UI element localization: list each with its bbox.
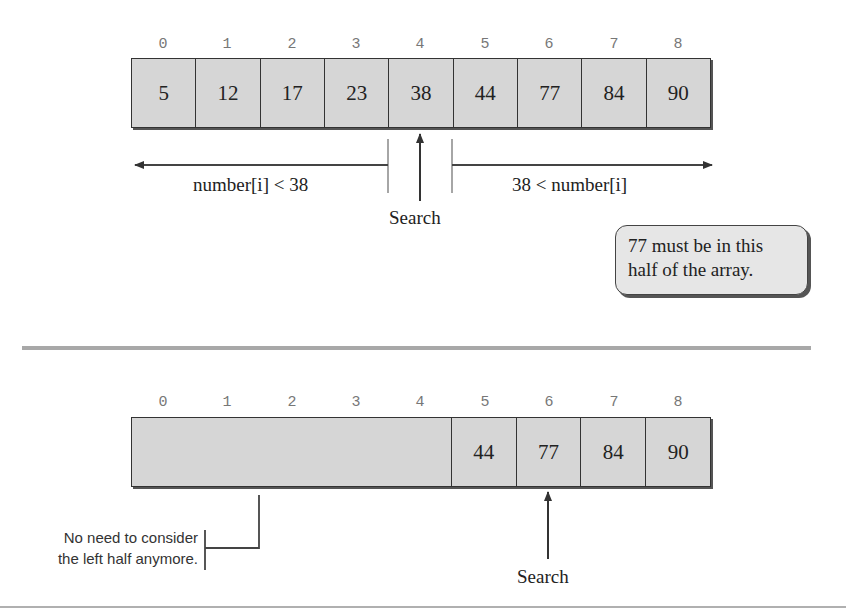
index-label: 7 [582,394,646,411]
index-label: 6 [517,394,581,411]
index-label: 0 [131,394,195,411]
search-label: Search [389,207,441,229]
array-cell: 90 [646,418,710,486]
callout-line: 77 must be in this [628,234,807,258]
bottom-rule [0,606,846,608]
right-range-label: 38 < number[i] [512,174,627,196]
array-cell-searched: 77 [517,418,582,486]
bracket-icon [205,495,259,548]
index-label: 5 [453,394,517,411]
note-line: the left half anymore. [20,548,198,569]
left-range-label: number[i] < 38 [193,174,308,196]
index-label: 2 [260,394,324,411]
panel-divider [22,346,811,350]
bottom-array: 44 77 84 90 [131,417,711,487]
note-text: No need to consider the left half anymor… [20,527,198,569]
array-cell: 84 [581,418,646,486]
diagram-lines [0,0,846,615]
index-label: 8 [646,394,710,411]
index-label: 4 [388,394,452,411]
callout-box: 77 must be in this half of the array. [615,225,808,295]
note-line: No need to consider [20,527,198,548]
index-label: 1 [195,394,259,411]
search-label: Search [517,566,569,588]
index-label: 3 [324,394,388,411]
callout-line: half of the array. [628,258,807,282]
array-cell: 44 [452,418,517,486]
eliminated-half [132,418,452,486]
